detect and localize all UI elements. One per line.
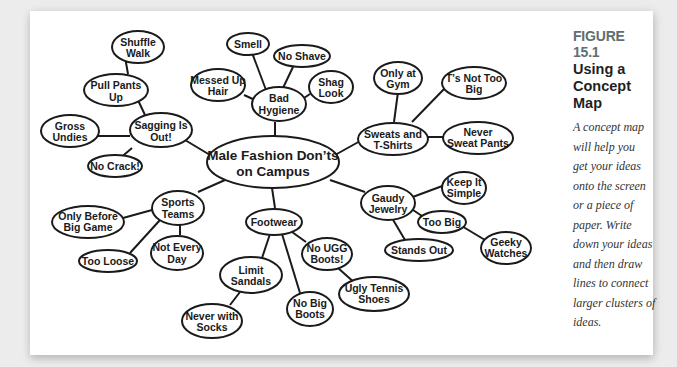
node-label: Boots! (310, 253, 343, 265)
node-label: Big (466, 83, 483, 95)
description-line: will help you (573, 138, 657, 158)
node-label: Out! (150, 131, 172, 143)
node-label: Simple (447, 187, 482, 199)
description-line: A concept map (573, 118, 657, 138)
figure-title: Using a Concept Map (573, 61, 653, 112)
figure-number: FIGURE 15.1 (573, 28, 653, 60)
node-label: Too Loose (82, 255, 134, 267)
description-line: ideas. (573, 313, 657, 333)
node-label: Boots (295, 308, 325, 320)
node-label: Sandals (231, 275, 271, 287)
node-label: Jewelry (369, 203, 408, 215)
node-label: Walk (126, 47, 150, 59)
node-label: Look (318, 87, 343, 99)
description-line: lines to connect (573, 274, 657, 294)
node-label: Not Every (152, 241, 201, 253)
node-label: Undies (52, 131, 87, 143)
node-label: No Shave (278, 50, 326, 62)
description-line: or a piece of (573, 196, 657, 216)
node-label: Up (109, 91, 123, 103)
node-label: Bad (269, 92, 289, 104)
figure-title-line: Using a (573, 61, 653, 78)
node-label: Sagging Is (134, 119, 187, 131)
node-label: Sports (161, 196, 194, 208)
node-label: Sweat Pants (447, 137, 509, 149)
figure-title-line: Concept Map (573, 78, 653, 112)
node-label: Shoes (358, 293, 390, 305)
node-label: Watches (485, 247, 528, 259)
description-line: onto the screen (573, 177, 657, 197)
node-label: Big Game (63, 221, 112, 233)
node-label: Gym (386, 78, 409, 90)
description-line: larger clusters of (573, 294, 657, 314)
description-line: down your ideas (573, 235, 657, 255)
node-label: No Crack! (90, 160, 140, 172)
node-label: Smell (234, 38, 262, 50)
node-label: Hygiene (259, 104, 300, 116)
node-label: T-Shirts (373, 139, 412, 151)
node-label-center: Male Fashion Don’ts (207, 148, 338, 163)
node-label-center-2: on Campus (236, 164, 310, 179)
description-line: and then draw (573, 255, 657, 275)
node-label: Hair (208, 85, 228, 97)
description-line: get your ideas (573, 157, 657, 177)
node-label: Stands Out (391, 244, 448, 256)
figure-caption: FIGURE 15.1 Using a Concept Map A concep… (573, 28, 653, 333)
node-label: Day (167, 253, 186, 265)
figure-description: A concept map will help you get your ide… (573, 118, 657, 333)
node-label: Pull Pants (91, 79, 142, 91)
node-label: Teams (162, 208, 195, 220)
node-label: Socks (197, 321, 228, 333)
description-line: paper. Write (573, 216, 657, 236)
node-label: Too Big (423, 216, 461, 228)
node-label: Footwear (251, 216, 298, 228)
